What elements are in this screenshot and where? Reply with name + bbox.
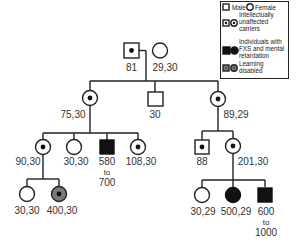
gen4-right-1-label: 30,29 (190, 206, 215, 217)
affected-male-square-icon (258, 188, 272, 202)
gen3-left-4-label: 108,30 (126, 156, 157, 167)
gen4-right-3-label-line3: 1000 (255, 227, 278, 238)
gen4-right-2-label: 500,29 (221, 206, 252, 217)
gen3-left-4-carrier-female[interactable]: 108,30 (126, 140, 157, 168)
legend-ld-female-dot-icon (233, 67, 235, 69)
gen3-left-2-label: 30,30 (63, 156, 88, 167)
carrier-dot-icon (88, 96, 93, 101)
carrier-dot-icon (216, 97, 221, 102)
gen4-left-1-label: 30,30 (14, 205, 39, 216)
legend-carrier-male-dot-icon (225, 22, 227, 24)
generation-2: 75,30 30 89,29 (60, 91, 248, 121)
gen3-right-2-carrier-female[interactable]: 201,30 (226, 139, 269, 168)
legend-carrier-female-dot-icon (233, 22, 235, 24)
grandmother-label: 29,30 (152, 62, 177, 73)
gen3-left-2-female[interactable]: 30,30 (63, 140, 88, 168)
legend-male-square-icon (223, 4, 229, 10)
carrier-dot-icon (41, 145, 46, 150)
female-circle-icon (20, 187, 35, 202)
grandmother-female[interactable]: 29,30 (152, 43, 177, 73)
grandfather-label: 81 (126, 62, 138, 73)
gen4-left-2-label: 400,30 (47, 205, 78, 216)
carrier-dot-icon (129, 48, 134, 53)
gen3-left-1-label: 90,30 (15, 156, 40, 167)
gen3-left-3-label-line2: to (104, 168, 111, 177)
legend-carriers-line2: unaffected (239, 18, 269, 25)
affected-female-circle-icon (226, 188, 241, 203)
daughter-right-carrier[interactable]: 89,29 (211, 92, 249, 121)
affected-male-square-icon (100, 140, 114, 154)
gen3-right-1-carrier-male[interactable]: 88 (195, 140, 209, 167)
legend-fxs-line1: Individuals with (239, 38, 282, 45)
pedigree-diagram: Male Female Intellectually unaffected ca… (0, 0, 301, 242)
legend-ld-male-dot-icon (225, 67, 227, 69)
gen3-left-3-label-line1: 580 (99, 156, 116, 167)
male-square-icon (148, 92, 163, 106)
legend-fxs-female-icon (231, 47, 238, 54)
grandfather-carrier-male[interactable]: 81 (124, 43, 139, 73)
gen4-right-2-affected-female[interactable]: 500,29 (221, 188, 252, 218)
gen3-left-3-affected-male[interactable]: 580 to 700 (99, 140, 116, 188)
son-label: 30 (149, 109, 161, 120)
gen4-right-1-female[interactable]: 30,29 (190, 188, 215, 218)
gen4-right-3-label-line2: to (263, 218, 270, 227)
daughter-left-carrier[interactable]: 75,30 (60, 91, 97, 121)
carrier-dot-icon (200, 145, 205, 150)
legend-ld-line2: disabled (239, 67, 263, 74)
legend-fxs-line2: FXS and mental (239, 45, 284, 52)
legend: Male Female Intellectually unaffected ca… (221, 2, 289, 79)
gen4-right-3-affected-male[interactable]: 600 to 1000 (255, 188, 278, 238)
daughter-left-label: 75,30 (60, 109, 85, 120)
gen4-left-2-learning-disabled-female[interactable]: 400,30 (47, 187, 78, 217)
gen3-left-1-carrier-female[interactable]: 90,30 (15, 140, 50, 168)
carrier-dot-icon (231, 144, 236, 149)
legend-fxs-line3: retardation (239, 52, 270, 59)
female-circle-icon (67, 140, 82, 155)
gen4-right-3-label-line1: 600 (258, 206, 275, 217)
legend-male-label: Male (232, 4, 246, 11)
gen3-right-1-label: 88 (196, 156, 208, 167)
legend-fxs-male-icon (223, 47, 230, 54)
son-unaffected[interactable]: 30 (148, 92, 163, 120)
generation-1: 81 29,30 (124, 43, 178, 73)
gen3-right-2-label: 201,30 (238, 156, 269, 167)
female-circle-icon (195, 188, 210, 203)
gen4-left-1-female[interactable]: 30,30 (14, 187, 39, 217)
legend-carriers-line3: carriers (239, 25, 260, 32)
daughter-right-label: 89,29 (223, 109, 248, 120)
generation-4: 30,30 400,30 30,29 500,29 600 to 1000 (14, 187, 277, 239)
legend-female-circle-icon (247, 4, 253, 10)
legend-female-label: Female (255, 4, 276, 11)
carrier-dot-icon (136, 145, 141, 150)
carrier-dot-icon (57, 192, 62, 197)
female-circle-icon (153, 43, 168, 58)
gen3-left-3-label-line3: 700 (99, 177, 116, 188)
